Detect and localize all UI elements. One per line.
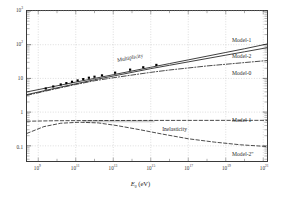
data-marker bbox=[52, 85, 54, 87]
data-marker bbox=[101, 74, 103, 76]
annotation-model2-mult: Model-2 bbox=[232, 53, 251, 59]
data-marker bbox=[65, 82, 67, 84]
annotation-inelasticity: Inelasticity bbox=[162, 126, 187, 132]
y-tick-label: 103 bbox=[0, 7, 23, 13]
x-tick-label: 1017 bbox=[184, 165, 193, 171]
series-line bbox=[27, 122, 267, 146]
annotation-model2-inel: Model-2" bbox=[232, 151, 254, 157]
data-marker bbox=[82, 78, 84, 80]
figure-container: 1031021010.1 109101110131015101710191021… bbox=[0, 0, 281, 200]
data-marker bbox=[142, 66, 144, 68]
x-tick-label: 1021 bbox=[260, 165, 269, 171]
y-tick-label: 10 bbox=[0, 75, 23, 81]
data-marker bbox=[114, 72, 116, 74]
x-tick-label: 109 bbox=[34, 165, 41, 171]
data-marker bbox=[60, 83, 62, 85]
x-tick-label: 1011 bbox=[71, 165, 80, 171]
series-line bbox=[27, 61, 267, 96]
x-tick-label: 1015 bbox=[146, 165, 155, 171]
data-marker bbox=[71, 81, 73, 83]
series-line bbox=[27, 44, 267, 92]
data-marker bbox=[129, 69, 131, 71]
data-marker bbox=[155, 64, 157, 66]
data-marker bbox=[45, 87, 47, 89]
annotation-model0-mult: Model-0 bbox=[232, 70, 251, 76]
data-layer bbox=[27, 11, 267, 161]
x-axis-unit: (eV) bbox=[138, 180, 150, 187]
data-marker bbox=[77, 79, 79, 81]
data-marker bbox=[93, 76, 95, 78]
annotation-model1-mult: Model-1 bbox=[232, 37, 251, 43]
plot-area bbox=[26, 10, 268, 162]
y-tick-label: 0.1 bbox=[0, 144, 23, 150]
y-tick-label: 102 bbox=[0, 41, 23, 47]
y-tick-label: 1 bbox=[0, 109, 23, 115]
x-tick-label: 1013 bbox=[109, 165, 118, 171]
x-axis-subscript: 0 bbox=[135, 185, 137, 189]
x-tick-label: 1019 bbox=[222, 165, 231, 171]
annotation-model1-inel: Model-1 bbox=[232, 117, 251, 123]
x-axis-title: E0 (eV) bbox=[0, 180, 281, 187]
data-marker bbox=[88, 77, 90, 79]
